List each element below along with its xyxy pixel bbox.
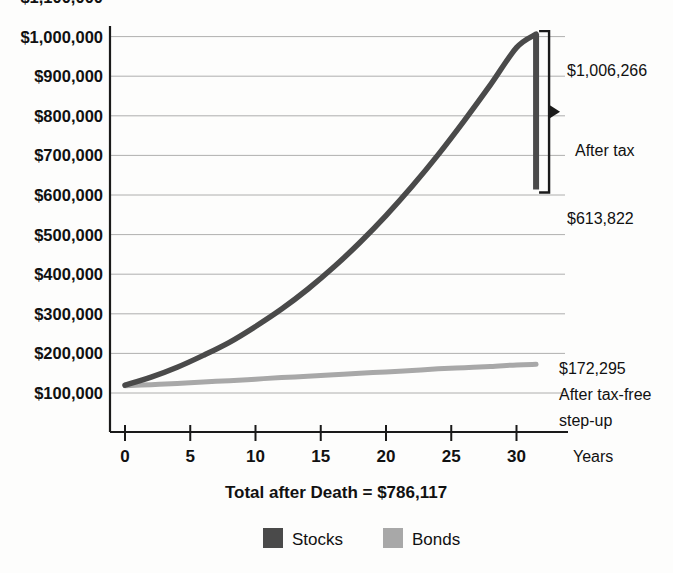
bonds-note-line-1: After tax-free: [559, 386, 652, 403]
x-axis-tick-label: 10: [246, 447, 265, 466]
y-axis-tick-label: $200,000: [34, 344, 103, 362]
legend-swatch-stocks: [263, 528, 283, 548]
financial-projection-chart: $100,000$200,000$300,000$400,000$500,000…: [0, 0, 673, 573]
legend-label-stocks: Stocks: [292, 530, 343, 549]
x-axis-tick-label: 20: [377, 447, 396, 466]
y-axis-tick-label: $500,000: [34, 226, 103, 244]
legend-label-bonds: Bonds: [412, 530, 460, 549]
bonds-end-value-label: $172,295: [559, 360, 626, 377]
chart-title: Total after Death = $786,117: [225, 483, 447, 502]
y-axis-tick-label: $300,000: [34, 305, 103, 323]
x-axis-tick-label: 15: [311, 447, 330, 466]
y-axis-tick-label: $800,000: [34, 107, 103, 125]
y-axis-tick-label: $700,000: [34, 146, 103, 164]
x-axis-label: Years: [573, 448, 613, 465]
y-axis-tick-label: $1,100,000: [20, 0, 103, 6]
legend-swatch-bonds: [383, 528, 403, 548]
y-axis-tick-label: $600,000: [34, 186, 103, 204]
y-axis-tick-label: $400,000: [34, 265, 103, 283]
bonds-note-line-2: step-up: [559, 412, 612, 429]
y-axis-tick-label: $100,000: [34, 384, 103, 402]
x-axis-tick-label: 5: [186, 447, 195, 466]
stocks-peak-value-label: $1,006,266: [567, 62, 647, 79]
stocks-after-tax-value-label: $613,822: [567, 210, 634, 227]
y-axis-tick-label: $1,000,000: [20, 28, 103, 46]
after-tax-annotation-label: After tax: [575, 142, 635, 159]
x-axis-tick-label: 25: [442, 447, 461, 466]
y-axis-tick-label: $900,000: [34, 67, 103, 85]
chart-root: $100,000$200,000$300,000$400,000$500,000…: [0, 0, 673, 573]
x-axis-tick-label: 0: [120, 447, 129, 466]
x-axis-tick-label: 30: [507, 447, 526, 466]
